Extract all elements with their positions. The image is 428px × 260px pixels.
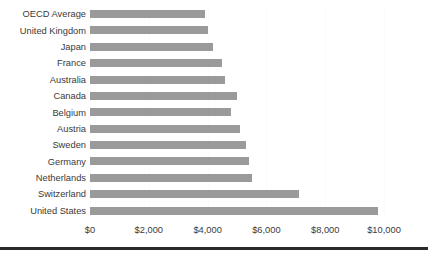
bar (90, 174, 252, 182)
bar-row (90, 39, 384, 55)
category-axis-labels: OECD AverageUnited KingdomJapanFranceAus… (0, 6, 86, 219)
category-label: France (0, 58, 86, 68)
bar (90, 92, 237, 100)
bar-series (90, 6, 384, 219)
bar (90, 10, 205, 18)
x-tick-label: $10,000 (367, 224, 401, 236)
bar-row (90, 137, 384, 153)
category-label: Australia (0, 75, 86, 85)
category-label: Austria (0, 124, 86, 134)
bar (90, 207, 378, 215)
bar (90, 108, 231, 116)
x-tick-label: $2,000 (135, 224, 163, 236)
bar (90, 141, 246, 149)
plot-area (90, 6, 384, 219)
bar-row (90, 22, 384, 38)
x-tick-label: $6,000 (252, 224, 280, 236)
category-label: Belgium (0, 108, 86, 118)
bar (90, 59, 222, 67)
bar-row (90, 104, 384, 120)
bar (90, 157, 249, 165)
bar (90, 190, 299, 198)
bar-row (90, 72, 384, 88)
bar-row (90, 55, 384, 71)
bar-row (90, 186, 384, 202)
x-axis-tick-labels: $0$2,000$4,000$6,000$8,000$10,000 (90, 224, 384, 238)
bar-row (90, 6, 384, 22)
bar-row (90, 121, 384, 137)
category-label: United Kingdom (0, 26, 86, 36)
bottom-divider (0, 247, 428, 250)
category-label: Netherlands (0, 173, 86, 183)
bar (90, 125, 240, 133)
category-label: Germany (0, 157, 86, 167)
x-tick-label: $0 (85, 224, 95, 236)
bar-chart: OECD AverageUnited KingdomJapanFranceAus… (0, 0, 428, 260)
x-tick-label: $4,000 (193, 224, 221, 236)
x-tick-label: $8,000 (311, 224, 339, 236)
category-label: United States (0, 206, 86, 216)
bar (90, 26, 208, 34)
bar (90, 76, 225, 84)
category-label: Switzerland (0, 189, 86, 199)
bar-row (90, 203, 384, 219)
bar-row (90, 153, 384, 169)
bar-row (90, 170, 384, 186)
gridline-5 (384, 6, 385, 219)
category-label: Canada (0, 91, 86, 101)
category-label: Sweden (0, 140, 86, 150)
category-label: OECD Average (0, 9, 86, 19)
bar-row (90, 88, 384, 104)
bar (90, 43, 213, 51)
category-label: Japan (0, 42, 86, 52)
